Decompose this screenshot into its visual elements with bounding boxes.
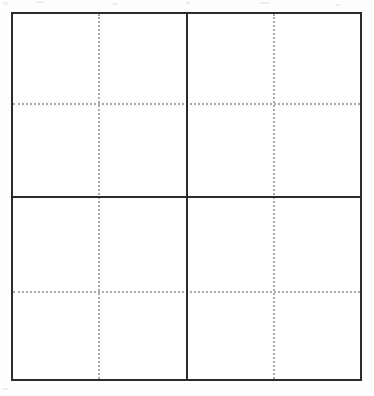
scan-artifact <box>112 3 118 5</box>
scan-artifact <box>259 2 270 4</box>
scan-artifact <box>36 1 45 3</box>
scan-artifact <box>186 1 190 4</box>
panel-top-right[interactable] <box>188 14 360 196</box>
scan-artifact <box>2 388 9 390</box>
panel-bottom-right[interactable] <box>188 198 360 379</box>
scan-artifact <box>336 4 341 6</box>
panel-top-left[interactable] <box>13 14 186 196</box>
figure-canvas <box>0 0 374 396</box>
panel-bottom-left[interactable] <box>13 198 186 379</box>
scan-artifact <box>3 2 8 5</box>
outer-frame <box>11 12 362 381</box>
